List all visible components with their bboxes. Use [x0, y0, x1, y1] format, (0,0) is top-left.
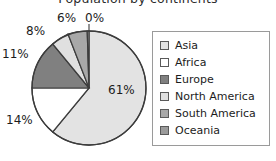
pie-label-asia: 61%: [108, 83, 135, 97]
pie-label-europe: 11%: [2, 47, 29, 61]
pie-label-africa: 14%: [6, 113, 33, 127]
chart-title: Population by continents: [0, 0, 276, 6]
legend-label-oceania: Oceania: [175, 125, 220, 136]
legend-item-europe: Europe: [160, 71, 265, 88]
legend-item-north-america: North America: [160, 88, 265, 105]
legend-item-south-america: South America: [160, 105, 265, 122]
legend-label-north-america: North America: [175, 91, 255, 102]
legend-swatch-asia: [160, 41, 169, 50]
legend-item-asia: Asia: [160, 37, 265, 54]
pie-chart-figure: Population by continents 61% 14% 11% 8% …: [0, 0, 276, 161]
legend-label-south-america: South America: [175, 108, 256, 119]
legend-label-europe: Europe: [175, 74, 214, 85]
legend-swatch-africa: [160, 58, 169, 67]
legend: Asia Africa Europe North America South A…: [152, 31, 270, 146]
pie-label-south-america: 6%: [57, 11, 76, 25]
legend-label-africa: Africa: [175, 57, 206, 68]
legend-swatch-europe: [160, 75, 169, 84]
legend-item-africa: Africa: [160, 54, 265, 71]
legend-swatch-north-america: [160, 92, 169, 101]
legend-swatch-south-america: [160, 109, 169, 118]
pie-label-north-america: 8%: [26, 24, 45, 38]
pie-label-oceania: 0%: [85, 11, 104, 25]
legend-swatch-oceania: [160, 126, 169, 135]
legend-item-oceania: Oceania: [160, 122, 265, 139]
legend-label-asia: Asia: [175, 40, 198, 51]
